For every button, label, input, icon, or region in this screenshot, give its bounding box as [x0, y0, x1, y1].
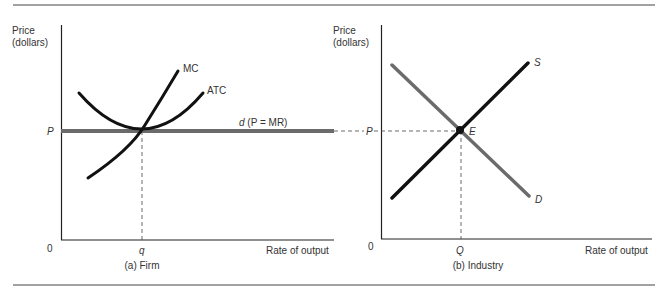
figure: Price (dollars) MC ATC d (P = MR) P 0 q … — [0, 0, 670, 294]
industry-caption: (b) Industry — [453, 260, 504, 271]
firm-xlabel: Rate of output — [266, 245, 329, 256]
firm-ylabel-line1: Price — [12, 25, 35, 36]
supply-label: S — [534, 57, 541, 68]
panel-industry: Price (dollars) S D E P 0 Q Rate of outp… — [333, 25, 652, 271]
equilibrium-point — [456, 126, 464, 134]
industry-ylabel-line1: Price — [333, 25, 356, 36]
firm-origin: 0 — [47, 243, 53, 254]
industry-xlabel: Rate of output — [585, 245, 648, 256]
firm-price-tick: P — [47, 126, 54, 137]
mc-label: MC — [183, 63, 199, 74]
demand-curve-label: D — [535, 194, 542, 205]
firm-q-tick: q — [139, 245, 145, 256]
atc-label: ATC — [207, 85, 226, 96]
industry-price-tick: P — [366, 126, 373, 137]
equilibrium-label: E — [469, 126, 476, 137]
industry-ylabel-line2: (dollars) — [333, 37, 369, 48]
firm-ylabel-line2: (dollars) — [12, 37, 48, 48]
panel-firm: Price (dollars) MC ATC d (P = MR) P 0 q … — [12, 25, 334, 271]
firm-caption: (a) Firm — [125, 260, 160, 271]
demand-label: d (P = MR) — [239, 117, 287, 128]
industry-q-tick: Q — [456, 245, 464, 256]
atc-curve — [79, 93, 203, 129]
industry-origin: 0 — [368, 241, 374, 252]
